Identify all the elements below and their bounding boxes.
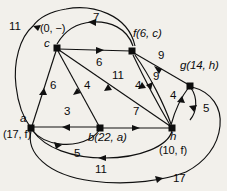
graph-canvas [0, 0, 227, 191]
weight-label-11-hc: 11 [112, 70, 124, 81]
edge-b-to-a-3 [33, 124, 99, 131]
edge-path [186, 87, 220, 172]
weight-label-5-ab: 5 [74, 148, 80, 159]
node-g[interactable] [187, 83, 194, 90]
edge-arrow [98, 155, 106, 161]
weight-label-4-hg: 4 [170, 90, 176, 101]
weight-label-4-hf: 4 [135, 80, 141, 91]
edge-g-outer-right [186, 87, 220, 172]
weight-label-17-ah: 17 [173, 173, 186, 184]
weight-label-5-gh: 5 [203, 103, 209, 114]
weight-label-6-cf: 6 [96, 57, 102, 68]
weight-label-7-bh: 7 [133, 106, 139, 117]
node-label-g: g(14, h) [180, 60, 219, 71]
edge-h-to-c-11 [59, 50, 170, 126]
node-label-f: f(6, c) [133, 28, 162, 39]
weight-label-9-upper: 9 [158, 50, 164, 61]
node-label-b: b(22, a) [88, 132, 127, 143]
node-c[interactable] [54, 45, 61, 52]
edge-arrow [132, 125, 140, 131]
edge-arrow [62, 124, 70, 131]
edge-arrow [177, 96, 185, 103]
edge-arrow [39, 88, 47, 95]
weight-label-4-bc: 4 [84, 80, 90, 91]
node-info-h: (10, f) [159, 145, 187, 156]
weight-label-9-lower: 9 [153, 71, 159, 82]
edge-path [190, 88, 196, 120]
node-info-c: (0, −) [40, 23, 65, 34]
edge-path [57, 22, 133, 46]
edge-path [59, 50, 170, 126]
weight-label-11-ha: 11 [95, 164, 107, 175]
edge-path [58, 49, 131, 51]
weight-label-11-topleft: 11 [9, 21, 21, 32]
node-label-c: c [44, 38, 50, 49]
edge-g-to-h-5 [189, 88, 197, 120]
edge-arrow [155, 176, 163, 183]
node-info-a: (17, f) [3, 129, 31, 140]
edge-arrow [96, 47, 104, 54]
edge-c-to-f-6 [58, 47, 131, 54]
graph-figure: c (0, −) f(6, c) g(14, h) a (17, f) b(22… [0, 0, 227, 191]
weight-label-3-ba: 3 [64, 106, 70, 117]
node-label-h: h [170, 131, 176, 142]
node-label-a: a [20, 113, 26, 124]
weight-label-6-ac: 6 [50, 80, 56, 91]
weight-label-7-top: 7 [93, 12, 99, 23]
node-f[interactable] [129, 48, 136, 55]
